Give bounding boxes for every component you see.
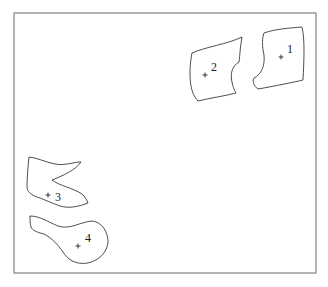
region-2: 2 <box>190 37 242 101</box>
region-4-outline <box>30 216 108 263</box>
region-1-centroid-marker <box>279 55 284 60</box>
region-1-label: 1 <box>287 42 293 56</box>
region-3-label: 3 <box>55 190 61 204</box>
region-3: 3 <box>27 157 88 207</box>
region-1: 1 <box>253 27 304 89</box>
figure-frame <box>14 13 316 273</box>
region-2-label: 2 <box>211 60 217 74</box>
region-4-label: 4 <box>85 231 91 245</box>
region-4: 4 <box>30 216 108 263</box>
region-3-centroid-marker <box>46 193 51 198</box>
region-1-outline <box>253 27 304 89</box>
region-2-centroid-marker <box>203 73 208 78</box>
regions-diagram: 1 2 3 4 <box>0 0 328 287</box>
region-4-centroid-marker <box>76 244 81 249</box>
